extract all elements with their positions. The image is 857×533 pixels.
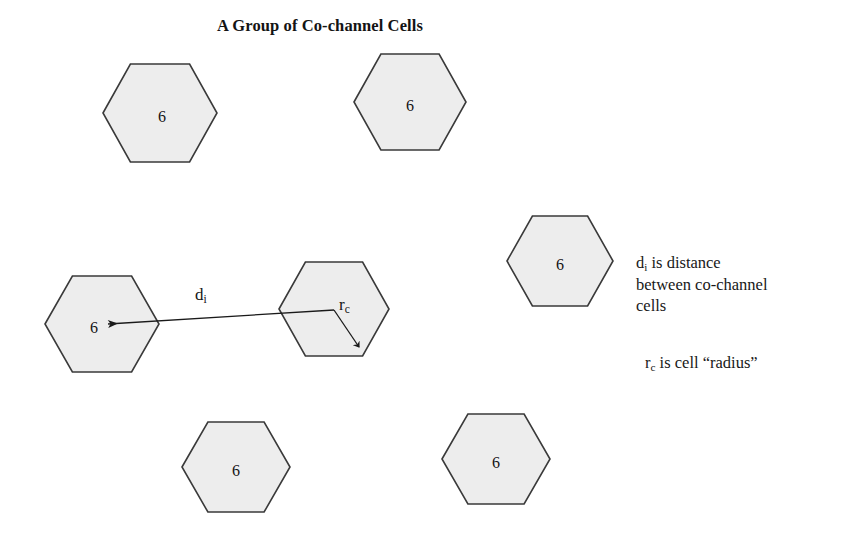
legend-line-1: di is distance (636, 252, 851, 274)
cell-left-label: 6 (90, 319, 98, 336)
legend-radius-definition: rc is cell “radius” (645, 352, 855, 374)
cell-top-left-label: 6 (158, 108, 166, 125)
cell-top-center-label: 6 (406, 97, 414, 114)
legend-line-3: cells (636, 295, 851, 317)
cell-right-label: 6 (556, 256, 564, 273)
distance-label: di (195, 285, 207, 305)
cell-left (45, 276, 159, 372)
cell-center (279, 262, 389, 356)
cell-bottom-right-label: 6 (492, 454, 500, 471)
legend-distance-definition: di is distance between co-channel cells (636, 252, 851, 317)
hexagon-group: 666666 (45, 54, 613, 512)
legend-line-2: between co-channel (636, 274, 851, 296)
figure-root: A Group of Co-channel Cells 666666 di rc… (0, 0, 857, 533)
cell-bottom-left-label: 6 (232, 462, 240, 479)
radius-label: rc (339, 295, 350, 315)
